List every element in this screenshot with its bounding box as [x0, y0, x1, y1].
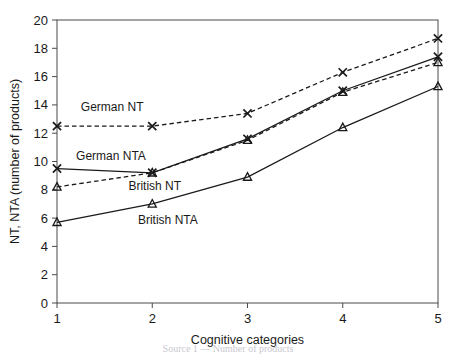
- y-tick-label: 20: [34, 13, 48, 28]
- y-tick-label: 4: [41, 239, 48, 254]
- y-tick-label: 8: [41, 182, 48, 197]
- x-tick-label: 4: [339, 311, 346, 326]
- data-point-marker-x: [339, 68, 347, 76]
- figure-container: 0246810121416182012345Cognitive categori…: [0, 0, 455, 358]
- line-chart: 0246810121416182012345Cognitive categori…: [0, 0, 455, 358]
- series-label-german-nt: German NT: [81, 100, 144, 114]
- y-tick-label: 6: [41, 211, 48, 226]
- series-british-nt: [53, 58, 442, 190]
- series-german-nt: [53, 34, 442, 130]
- y-tick-label: 14: [34, 97, 48, 112]
- figure-caption-ghost: Source 1 — Number of products: [163, 343, 294, 354]
- y-tick-label: 10: [34, 154, 48, 169]
- y-tick-label: 12: [34, 126, 48, 141]
- x-tick-label: 2: [149, 311, 156, 326]
- x-tick-label: 1: [53, 311, 60, 326]
- y-tick-label: 0: [41, 296, 48, 311]
- series-label-german-nta: German NTA: [76, 149, 146, 163]
- y-tick-label: 18: [34, 41, 48, 56]
- y-axis-title: NT, NTA (number of products): [8, 79, 22, 244]
- y-tick-label: 16: [34, 69, 48, 84]
- series-label-british-nta: British NTA: [138, 213, 198, 227]
- series-line: [57, 62, 438, 187]
- y-tick-label: 2: [41, 267, 48, 282]
- series-label-british-nt: British NT: [128, 179, 181, 193]
- x-tick-label: 3: [244, 311, 251, 326]
- x-tick-label: 5: [434, 311, 441, 326]
